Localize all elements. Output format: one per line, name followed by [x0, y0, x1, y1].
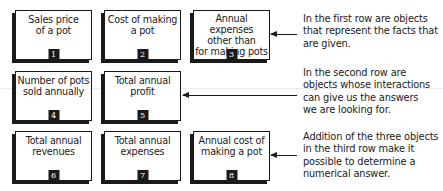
- object-box-total-revenues: Total annualrevenues 6: [15, 131, 92, 181]
- row1-explanation: In the first row are objectsthat represe…: [303, 13, 443, 50]
- row3-explanation: Addition of the three objectsin the thir…: [303, 131, 443, 180]
- box-label: Total annualprofit: [105, 75, 180, 97]
- arrow-left-icon: [183, 95, 297, 96]
- box-number-badge: 2: [137, 49, 148, 60]
- box-label: Annual cost ofmaking a pot: [194, 135, 269, 157]
- box-number-badge: 5: [137, 110, 148, 121]
- box-number-badge: 7: [137, 170, 148, 181]
- object-box-annual-cost-making: Annual cost ofmaking a pot 8: [193, 131, 270, 181]
- object-box-cost-of-making: Cost of makinga pot 2: [104, 10, 181, 60]
- arrow-left-icon: [271, 34, 297, 35]
- object-box-pots-sold: Number of potssold annually 4: [15, 71, 92, 121]
- object-box-total-profit: Total annualprofit 5: [104, 71, 181, 121]
- object-box-sales-price: Sales priceof a pot 1: [15, 10, 92, 60]
- row2-explanation: In the second row areobjects whose inter…: [303, 67, 443, 116]
- box-number-badge: 3: [226, 49, 237, 60]
- box-label: Cost of makinga pot: [105, 14, 180, 36]
- box-label: Sales priceof a pot: [16, 14, 91, 36]
- box-label: Number of potssold annually: [16, 75, 91, 97]
- object-box-total-expenses: Total annualexpenses 7: [104, 131, 181, 181]
- object-box-annual-expenses-other: Annual expensesother thanfor making pots…: [193, 10, 270, 60]
- box-number-badge: 1: [48, 49, 59, 60]
- box-number-badge: 6: [48, 170, 59, 181]
- box-number-badge: 8: [226, 170, 237, 181]
- box-number-badge: 4: [48, 110, 59, 121]
- arrow-left-icon: [271, 155, 297, 156]
- box-label: Total annualexpenses: [105, 135, 180, 157]
- box-label: Total annualrevenues: [16, 135, 91, 157]
